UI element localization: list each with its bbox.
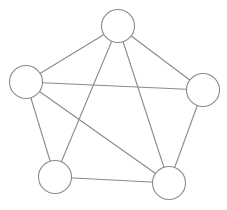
- node-bottom-right: [153, 167, 186, 200]
- node-bottom-left: [39, 161, 72, 194]
- node-right: [187, 74, 220, 107]
- edge-top-bottom-left: [55, 26, 118, 177]
- node-layer: [10, 10, 220, 200]
- edge-layer: [26, 26, 203, 183]
- edge-left-right: [26, 82, 203, 90]
- node-top: [102, 10, 135, 43]
- node-left: [10, 66, 43, 99]
- edge-top-bottom-right: [118, 26, 169, 183]
- graph-diagram: [0, 0, 227, 210]
- edge-bottom-left-bottom-right: [55, 177, 169, 183]
